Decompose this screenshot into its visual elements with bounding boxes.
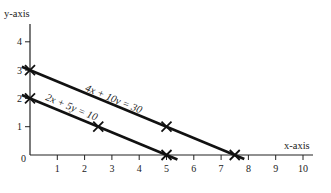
x-tick-label: 9 (273, 163, 278, 174)
x-tick-label: 7 (219, 163, 224, 174)
x-tick-label: 6 (191, 163, 196, 174)
y-tick-label: 2 (17, 93, 22, 104)
series-1: 4x + 10y = 30 (22, 65, 244, 160)
y-axis-label: y-axis (4, 8, 30, 19)
axes (30, 24, 313, 155)
cross-marker-icon (93, 122, 103, 132)
origin-label: 0 (21, 153, 26, 164)
x-tick-label: 8 (246, 163, 251, 174)
series-group: 4x + 10y = 302x + 5y = 10 (22, 65, 244, 160)
y-ticks: 1234 (17, 36, 30, 132)
x-tick-label: 5 (164, 163, 169, 174)
x-tick-label: 3 (109, 163, 114, 174)
chart: 12345678910 1234 0 y-axis x-axis 4x + 10… (0, 0, 331, 193)
cross-marker-icon (162, 122, 172, 132)
x-tick-label: 4 (137, 163, 142, 174)
series-2: 2x + 5y = 10 (22, 92, 178, 160)
x-tick-label: 1 (55, 163, 60, 174)
x-tick-label: 2 (82, 163, 87, 174)
x-tick-label: 10 (298, 163, 308, 174)
y-tick-label: 3 (17, 65, 22, 76)
x-ticks: 12345678910 (55, 155, 308, 174)
series-line (22, 67, 244, 159)
x-axis-label: x-axis (284, 140, 310, 151)
y-tick-label: 4 (17, 36, 22, 47)
y-tick-label: 1 (17, 121, 22, 132)
